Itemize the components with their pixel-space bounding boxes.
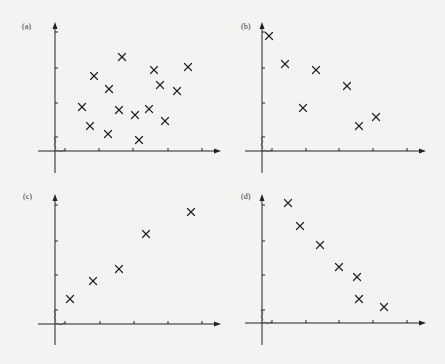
data-point-cross-icon: [317, 242, 324, 249]
x-axis-arrow-icon: [419, 321, 426, 326]
data-point-cross-icon: [136, 137, 143, 144]
panel-label-c: (c): [23, 192, 32, 201]
data-point-cross-icon: [282, 61, 289, 68]
y-axis-arrow-icon: [260, 22, 265, 29]
data-point-cross-icon: [185, 64, 192, 71]
data-point-cross-icon: [297, 223, 304, 230]
data-point-cross-icon: [151, 67, 158, 74]
x-axis-arrow-icon: [214, 322, 221, 327]
data-point-cross-icon: [336, 264, 343, 271]
data-point-cross-icon: [143, 231, 150, 238]
data-point-cross-icon: [132, 112, 139, 119]
data-point-cross-icon: [157, 82, 164, 89]
data-point-cross-icon: [146, 106, 153, 113]
scatter-panel-d: (d): [241, 192, 426, 345]
data-point-cross-icon: [91, 73, 98, 80]
data-point-cross-icon: [90, 278, 97, 285]
scatter-panel-c: (c): [23, 192, 221, 345]
figure-canvas: (a) (b) (c) (d): [0, 0, 445, 364]
data-point-cross-icon: [105, 131, 112, 138]
panel-label-a: (a): [22, 22, 31, 31]
data-point-cross-icon: [381, 304, 388, 311]
data-point-cross-icon: [106, 86, 113, 93]
y-axis-arrow-icon: [260, 194, 265, 201]
scatter-panel-a: (a): [22, 22, 221, 173]
scatter-panel-b: (b): [241, 22, 426, 173]
data-point-cross-icon: [313, 67, 320, 74]
x-axis-arrow-icon: [214, 149, 221, 154]
panel-label-b: (b): [241, 22, 251, 31]
data-point-cross-icon: [344, 83, 351, 90]
y-axis-arrow-icon: [53, 194, 58, 201]
data-point-cross-icon: [354, 274, 361, 281]
data-point-cross-icon: [119, 54, 126, 61]
data-point-cross-icon: [174, 88, 181, 95]
data-point-cross-icon: [116, 107, 123, 114]
x-axis-arrow-icon: [419, 149, 426, 154]
data-point-cross-icon: [188, 209, 195, 216]
data-point-cross-icon: [266, 33, 273, 40]
data-point-cross-icon: [79, 104, 86, 111]
data-point-cross-icon: [356, 123, 363, 130]
panel-label-d: (d): [241, 192, 251, 201]
data-point-cross-icon: [87, 123, 94, 130]
data-point-cross-icon: [356, 296, 363, 303]
data-point-cross-icon: [285, 200, 292, 207]
data-point-cross-icon: [116, 266, 123, 273]
data-point-cross-icon: [373, 114, 380, 121]
data-point-cross-icon: [67, 296, 74, 303]
y-axis-arrow-icon: [53, 22, 58, 29]
data-point-cross-icon: [162, 118, 169, 125]
data-point-cross-icon: [300, 105, 307, 112]
